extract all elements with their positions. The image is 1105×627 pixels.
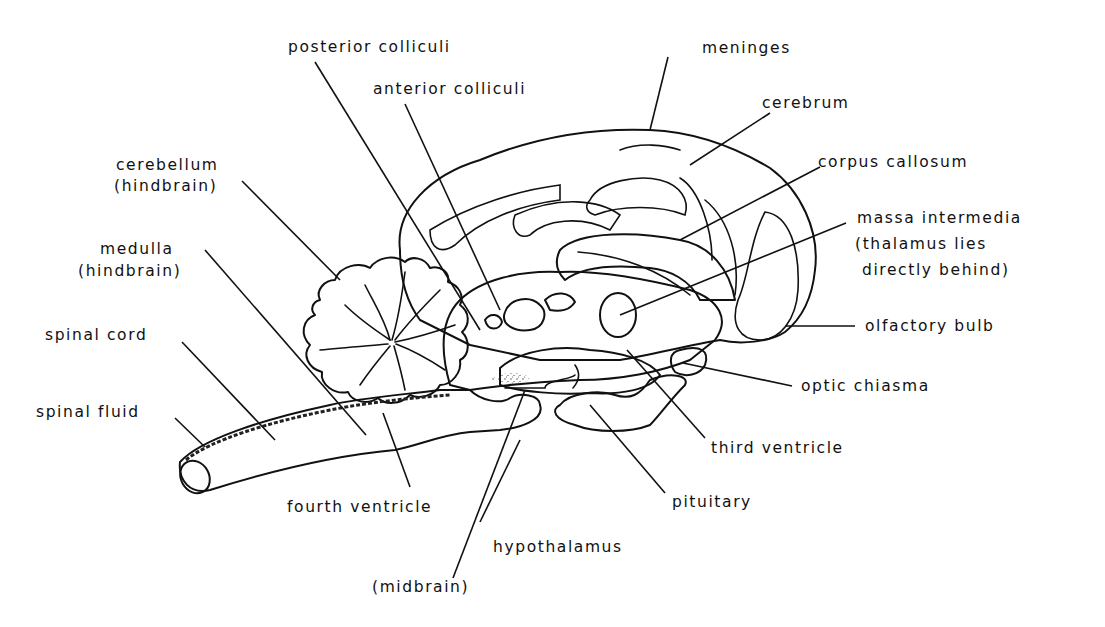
label-optic-chiasma: optic chiasma [801,376,930,396]
massa-intermedia-shape [600,293,636,337]
label-massa-intermedia: massa intermedia [857,208,1022,228]
label-fourth-ventricle: fourth ventricle [287,497,432,517]
label-massa-note-2: directly behind) [862,260,1010,280]
brain-diagram [0,0,1105,627]
label-hypothalamus: hypothalamus [493,537,623,557]
leader-lines [175,57,855,578]
cerebellum-shape [304,258,468,403]
label-pituitary: pituitary [672,492,752,512]
spinal-cord-shape [180,390,541,491]
label-spinal-cord: spinal cord [45,325,147,345]
label-spinal-fluid: spinal fluid [36,402,140,422]
cerebrum-shape [400,130,816,360]
label-medulla-note: (hindbrain) [78,261,181,281]
label-cerebellum-note: (hindbrain) [114,176,217,196]
label-cerebrum: cerebrum [762,93,850,113]
cerebellum-folia [320,272,455,390]
label-posterior-colliculi: posterior colliculi [288,37,451,57]
label-medulla: medulla [100,239,174,259]
label-meninges: meninges [702,38,791,58]
spinal-fluid-layer [186,395,450,460]
label-midbrain: (midbrain) [372,577,469,597]
label-corpus-callosum: corpus callosum [818,152,968,172]
label-olfactory-bulb: olfactory bulb [865,316,995,336]
pituitary-shape [555,375,686,431]
label-anterior-colliculi: anterior colliculi [373,79,526,99]
label-massa-note-1: (thalamus lies [855,234,987,254]
label-third-ventricle: third ventricle [711,438,844,458]
label-cerebellum: cerebellum [116,155,219,175]
